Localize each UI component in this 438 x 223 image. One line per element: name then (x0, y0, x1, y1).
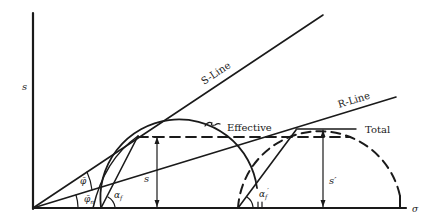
alpha-f-prime-angle-arc (247, 197, 253, 207)
phi-bar-n-subscript: n (90, 198, 94, 205)
alpha-f-prime-label: αf′ (259, 187, 269, 201)
s-line (33, 15, 323, 208)
mohr-diagram: s σ S-Line R-Line Effective Total s s′ φ… (0, 0, 438, 223)
r-line (33, 97, 396, 208)
phi-bar-n-label: φ̄n (84, 194, 94, 205)
phi-bar-label: φ̄ (80, 176, 87, 186)
s-dimension-label: s (144, 173, 149, 184)
x-axis-label: σ (412, 204, 419, 214)
phi-bar-n-angle-arc (76, 195, 78, 207)
effective-label: Effective (227, 122, 272, 133)
y-axis-label: s (22, 81, 27, 92)
alpha-f-label: αf (114, 190, 124, 202)
phi-bar-angle-arc (87, 172, 92, 190)
s-prime-dimension-label: s′ (329, 175, 337, 186)
total-label: Total (365, 124, 390, 135)
alpha-f-subscript: f (119, 194, 124, 202)
s-arrow-head-top (155, 137, 160, 144)
s-top-cap (152, 136, 162, 138)
s-arrow-head-bottom (155, 200, 160, 207)
s-prime-arrow-head-bottom (321, 200, 326, 207)
alpha-f-prime-mark: ′ (267, 187, 269, 195)
s-line-label: S-Line (199, 59, 232, 86)
